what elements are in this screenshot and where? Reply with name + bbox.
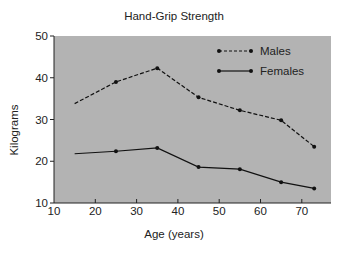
data-point-marker — [197, 165, 201, 169]
y-tick-label: 30 — [35, 114, 48, 126]
data-point-marker — [238, 167, 242, 171]
x-tick-label: 40 — [172, 205, 185, 217]
legend-marker — [249, 49, 253, 53]
y-tick-label: 20 — [35, 155, 48, 167]
data-point-marker — [155, 66, 159, 70]
data-point-marker — [312, 145, 316, 149]
data-point-marker — [279, 180, 283, 184]
y-tick-label: 50 — [35, 30, 48, 42]
data-point-marker — [312, 186, 316, 190]
data-point-marker — [114, 80, 118, 84]
data-point-marker — [279, 118, 283, 122]
chart-figure: Hand-Grip Strength Kilograms Age (years)… — [0, 0, 348, 253]
y-tick-label: 40 — [35, 72, 48, 84]
data-point-marker — [114, 149, 118, 153]
plot-background — [54, 36, 331, 203]
data-point-marker — [197, 95, 201, 99]
x-tick-label: 30 — [130, 205, 143, 217]
x-tick-label: 10 — [48, 205, 61, 217]
y-tick-label: 10 — [35, 197, 48, 209]
data-point-marker — [155, 146, 159, 150]
legend-marker — [217, 49, 221, 53]
x-tick-label: 60 — [254, 205, 267, 217]
legend-marker — [217, 69, 221, 73]
x-tick-label: 50 — [213, 205, 226, 217]
plot-area: 102030405010203040506070MalesFemales — [0, 0, 348, 253]
x-tick-label: 70 — [295, 205, 308, 217]
legend-label-females: Females — [260, 65, 304, 77]
data-point-marker — [238, 108, 242, 112]
legend-label-males: Males — [260, 45, 291, 57]
x-tick-label: 20 — [89, 205, 102, 217]
legend-marker — [249, 69, 253, 73]
